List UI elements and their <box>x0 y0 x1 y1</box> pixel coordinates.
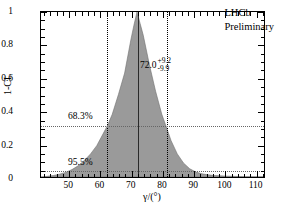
axis-tick <box>261 171 265 172</box>
axis-tick <box>261 104 265 105</box>
axis-tick <box>82 174 83 178</box>
cl68-label: 68.3% <box>68 111 93 121</box>
axis-tick <box>188 174 189 178</box>
axis-tick <box>41 129 45 130</box>
axis-tick <box>207 174 208 178</box>
x-tick-label: 80 <box>157 180 167 190</box>
gamma-1-cl-scan-figure: 5060708090100110 00.20.40.60.81 γ/(°) 1-… <box>0 0 282 208</box>
axis-tick <box>41 162 45 163</box>
axis-tick <box>175 12 176 16</box>
axis-tick <box>175 174 176 178</box>
axis-tick <box>41 137 45 138</box>
axis-tick <box>157 12 158 16</box>
axis-tick <box>225 171 226 177</box>
axis-tick <box>132 12 133 18</box>
y-tick-label: 0 <box>8 173 13 183</box>
central-value-number: 72.0 <box>140 60 157 70</box>
axis-tick <box>41 70 45 71</box>
axis-tick <box>200 174 201 178</box>
axis-tick <box>132 171 133 177</box>
axis-tick <box>41 171 45 172</box>
x-tick-label: 110 <box>249 180 263 190</box>
error-down: -9.9 <box>158 65 172 73</box>
axis-tick <box>69 171 70 177</box>
axis-tick <box>41 96 45 97</box>
experiment-name: LHCb <box>224 6 274 20</box>
axis-tick <box>41 20 45 21</box>
axis-tick <box>100 171 101 177</box>
axis-tick <box>50 12 51 16</box>
axis-tick <box>75 12 76 16</box>
axis-tick <box>188 12 189 16</box>
axis-tick <box>113 12 114 16</box>
axis-tick <box>258 112 264 113</box>
axis-tick <box>41 54 45 55</box>
cl95-label: 95.5% <box>68 157 93 167</box>
axis-tick <box>261 129 265 130</box>
axis-tick <box>219 12 220 16</box>
axis-tick <box>194 12 195 18</box>
axis-tick <box>50 174 51 178</box>
axis-tick <box>182 174 183 178</box>
y-tick-label: 0.4 <box>1 106 13 116</box>
axis-tick <box>107 12 108 16</box>
axis-tick <box>258 146 264 147</box>
axis-tick <box>163 171 164 177</box>
x-tick-label: 60 <box>95 180 105 190</box>
axis-tick <box>41 62 45 63</box>
axis-tick <box>261 70 265 71</box>
axis-tick <box>244 174 245 178</box>
axis-tick <box>163 12 164 18</box>
axis-tick <box>41 12 47 13</box>
axis-tick <box>261 54 265 55</box>
axis-tick <box>63 174 64 178</box>
axis-tick <box>200 12 201 16</box>
axis-tick <box>150 174 151 178</box>
axis-tick <box>125 174 126 178</box>
axis-tick <box>88 12 89 16</box>
x-axis-title: γ/(°) <box>143 191 161 202</box>
lower-68-line <box>107 12 108 177</box>
axis-tick <box>169 174 170 178</box>
axis-tick <box>41 37 45 38</box>
axis-tick <box>213 174 214 178</box>
axis-tick <box>169 12 170 16</box>
axis-tick <box>144 174 145 178</box>
axis-tick <box>257 171 258 177</box>
axis-tick <box>258 79 264 80</box>
experiment-label: LHCb Preliminary <box>224 6 274 34</box>
axis-tick <box>250 174 251 178</box>
plot-area <box>40 11 265 178</box>
axis-tick <box>75 174 76 178</box>
axis-tick <box>119 174 120 178</box>
y-tick-label: 0.2 <box>1 140 13 150</box>
best-fit-line <box>138 12 139 177</box>
axis-tick <box>261 154 265 155</box>
axis-tick <box>232 174 233 178</box>
axis-tick <box>44 174 45 178</box>
x-tick-label: 90 <box>188 180 198 190</box>
y-axis-title: 1-CL <box>2 74 13 95</box>
axis-tick <box>219 174 220 178</box>
axis-tick <box>82 12 83 16</box>
axis-tick <box>213 12 214 16</box>
axis-tick <box>41 45 47 46</box>
axis-tick <box>150 12 151 16</box>
upper-68-line <box>167 12 168 177</box>
axis-tick <box>88 174 89 178</box>
axis-tick <box>261 37 265 38</box>
axis-tick <box>261 137 265 138</box>
axis-tick <box>41 121 45 122</box>
axis-tick <box>261 121 265 122</box>
axis-tick <box>125 12 126 16</box>
axis-tick <box>261 96 265 97</box>
axis-tick <box>258 45 264 46</box>
uncertainty-block: +9.2 -9.9 <box>158 57 172 73</box>
axis-tick <box>69 12 70 18</box>
axis-tick <box>41 104 45 105</box>
one-minus-cl-curve <box>41 12 264 177</box>
axis-tick <box>119 12 120 16</box>
central-value-annotation: 72.0 +9.2 -9.9 <box>140 57 171 73</box>
x-tick-label: 70 <box>126 180 136 190</box>
axis-tick <box>207 12 208 16</box>
